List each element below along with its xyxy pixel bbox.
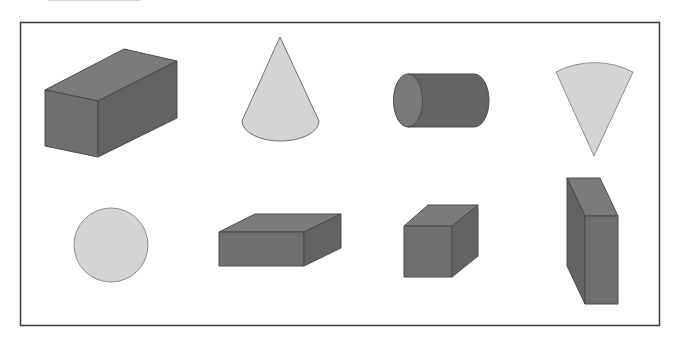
- cylinder-cap: [394, 74, 423, 127]
- circle-body: [74, 208, 148, 282]
- rect-prism-long-front-face: [45, 90, 98, 157]
- cube-front-face: [404, 226, 452, 277]
- rect-prism-tall-front-face: [585, 216, 618, 304]
- rect-prism-flat-front-face: [219, 232, 304, 266]
- circle-shape: [74, 208, 148, 282]
- cylinder-shape: [394, 74, 490, 127]
- geometric-shapes-figure: [0, 0, 681, 338]
